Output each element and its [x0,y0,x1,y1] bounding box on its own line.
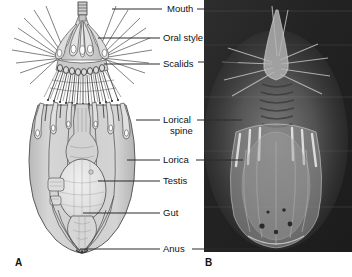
photo-organ-mass [242,132,310,240]
panel-b-letter: B [205,257,212,268]
label-scalids-text: Scalids [163,58,194,69]
label-lorical-spine-line1: Lorical [163,114,191,125]
label-anus-text: Anus [163,243,185,254]
label-lorical-spine-line2: spine [170,125,193,136]
anus-opening [80,250,83,253]
label-lorica-text: Lorica [163,154,190,165]
label-gut-text: Gut [163,207,179,218]
label-testis-text: Testis [163,175,188,186]
label-oral-style-text: Oral style [163,32,203,43]
panel-b-photo: B [204,0,352,268]
mouth-tube [78,2,87,21]
panel-a-letter: A [15,257,22,268]
panel-a-letter-group: A [15,257,22,268]
testis-nucleus [89,170,93,174]
panel-b-letter-group: B [205,257,212,268]
figure-root: A [0,0,352,277]
label-mouth-text: Mouth [167,3,193,14]
